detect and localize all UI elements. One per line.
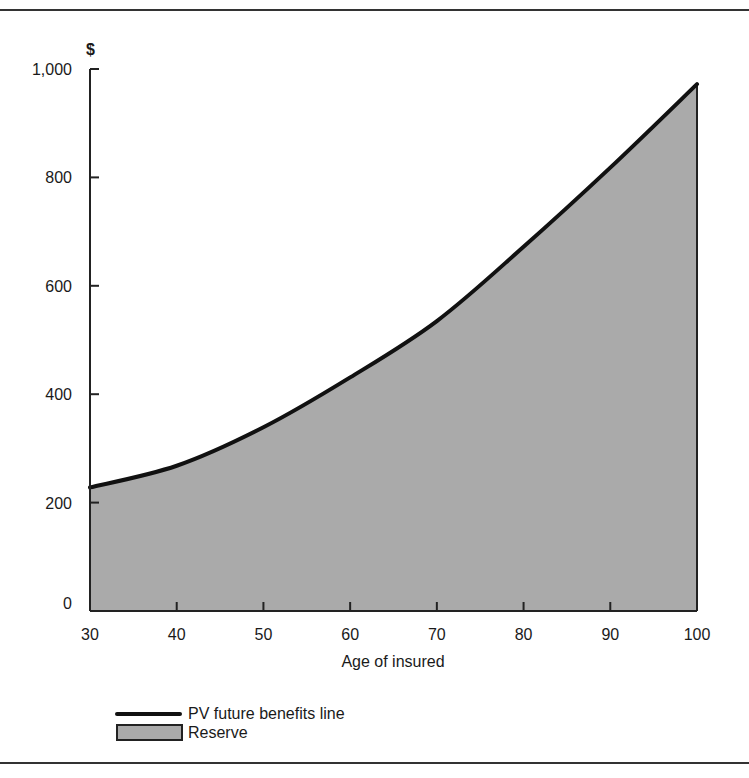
legend-label-line: PV future benefits line xyxy=(188,705,345,723)
legend-item-line: PV future benefits line xyxy=(115,704,345,723)
y-tick-label: 0 xyxy=(63,595,72,612)
x-tick-label: 50 xyxy=(255,626,273,643)
x-tick-label: 70 xyxy=(428,626,446,643)
y-tick-label: 600 xyxy=(45,278,72,295)
legend: PV future benefits line Reserve xyxy=(115,704,345,742)
y-tick-label: 800 xyxy=(45,169,72,186)
chart-plot: 02004006008001,000 30405060708090100 $ A… xyxy=(0,0,749,778)
line-swatch-icon xyxy=(115,712,182,716)
x-tick-label: 100 xyxy=(684,626,711,643)
x-tick-label: 90 xyxy=(601,626,619,643)
x-axis-label: Age of insured xyxy=(341,653,444,670)
y-axis-label: $ xyxy=(86,41,95,58)
y-tick-label: 200 xyxy=(45,495,72,512)
y-tick-label: 400 xyxy=(45,386,72,403)
area-swatch-icon xyxy=(116,724,183,741)
y-tick-label: 1,000 xyxy=(32,61,72,78)
legend-item-reserve: Reserve xyxy=(115,723,345,742)
reserve-area xyxy=(90,84,697,611)
legend-label-reserve: Reserve xyxy=(188,724,248,742)
x-tick-label: 40 xyxy=(168,626,186,643)
x-tick-label: 80 xyxy=(515,626,533,643)
x-tick-label: 30 xyxy=(81,626,99,643)
y-axis-ticks: 02004006008001,000 xyxy=(32,61,99,612)
x-tick-label: 60 xyxy=(341,626,359,643)
